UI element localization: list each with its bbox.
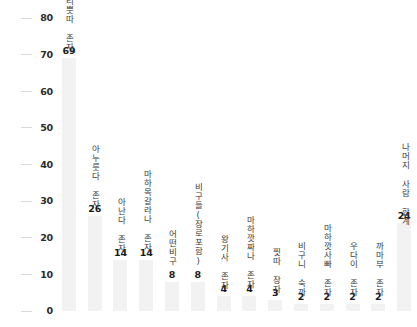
bar[interactable] — [346, 304, 360, 311]
y-axis-tick-label: 10 — [37, 270, 53, 280]
bar[interactable] — [294, 304, 308, 311]
y-axis-tick-mark — [21, 311, 32, 312]
bar-category-label: 아난다 존자 — [116, 198, 125, 245]
y-axis-tick-mark — [21, 91, 32, 92]
bar[interactable] — [217, 296, 231, 311]
bar-category-label: 아누룻다 존자 — [90, 145, 99, 201]
bar-category-label: 나머지 사람 합계 — [400, 143, 409, 208]
bar[interactable] — [62, 58, 76, 311]
bar[interactable] — [88, 216, 102, 311]
bar-category-label: 사리뿟따 존자 — [64, 0, 73, 43]
y-axis-tick-mark — [21, 18, 32, 19]
bar-group[interactable]: 8어떤비구 — [159, 0, 185, 327]
y-axis-tick-label: 50 — [37, 123, 53, 133]
bar-value-label: 8 — [195, 270, 201, 280]
bar[interactable] — [320, 304, 334, 311]
y-axis-tick-mark — [21, 127, 32, 128]
y-axis-tick-mark — [21, 274, 32, 275]
bar[interactable] — [242, 296, 256, 311]
plot-area: 69사리뿟따 존자26아누룻다 존자14아난다 존자14마하목갈라나 존자8어떤… — [56, 0, 417, 327]
bar-category-label: 비구들(장로포함) — [193, 183, 202, 267]
y-axis-tick-label: 0 — [37, 306, 53, 316]
y-axis-tick-label: 40 — [37, 160, 53, 170]
bar-category-label: 어떤비구 — [168, 230, 177, 267]
bar[interactable] — [397, 223, 411, 311]
bar-group[interactable]: 24나머지 사람 합계 — [391, 0, 417, 327]
bar[interactable] — [371, 304, 385, 311]
bar-category-label: 왕기사 존자 — [219, 235, 228, 282]
bar-category-label: 마하깟사빠 존자 — [322, 224, 331, 289]
bar[interactable] — [139, 260, 153, 311]
bar-category-label: 찟따 장자 — [271, 248, 280, 285]
bar-chart: 01020304050607080 69사리뿟따 존자26아누룻다 존자14아난… — [0, 0, 417, 327]
bar-value-label: 8 — [169, 270, 175, 280]
y-axis-tick-label: 60 — [37, 87, 53, 97]
bar-category-label: 마하목갈라나 존자 — [142, 170, 151, 244]
y-axis-tick-mark — [21, 201, 32, 202]
bar[interactable] — [191, 282, 205, 311]
bar[interactable] — [113, 260, 127, 311]
y-axis-tick-mark — [21, 54, 32, 55]
bar-category-label: 까마부 존자 — [374, 242, 383, 289]
bar-group[interactable]: 4왕기사 존자 — [211, 0, 237, 327]
bar-category-label: 비구니 숙까 — [297, 242, 306, 289]
y-axis-tick-mark — [21, 164, 32, 165]
bar-group[interactable]: 2우다이 존자 — [340, 0, 366, 327]
y-axis: 01020304050607080 — [0, 0, 56, 327]
bar-group[interactable]: 8비구들(장로포함) — [185, 0, 211, 327]
y-axis-tick-label: 30 — [37, 196, 53, 206]
bar-group[interactable]: 2마하깟사빠 존자 — [314, 0, 340, 327]
bar-group[interactable]: 2비구니 숙까 — [288, 0, 314, 327]
bar-group[interactable]: 4마하깟짜나 존자 — [237, 0, 263, 327]
y-axis-tick-label: 20 — [37, 233, 53, 243]
bar-group[interactable]: 14마하목갈라나 존자 — [133, 0, 159, 327]
bar-group[interactable]: 14아난다 존자 — [108, 0, 134, 327]
y-axis-tick-label: 80 — [37, 13, 53, 23]
bar[interactable] — [268, 300, 282, 311]
bar[interactable] — [165, 282, 179, 311]
bar-group[interactable]: 2까마부 존자 — [365, 0, 391, 327]
bar-group[interactable]: 3찟따 장자 — [262, 0, 288, 327]
bar-category-label: 마하깟짜나 존자 — [245, 216, 254, 281]
y-axis-tick-label: 70 — [37, 50, 53, 60]
y-axis-tick-mark — [21, 237, 32, 238]
bar-group[interactable]: 69사리뿟따 존자 — [56, 0, 82, 327]
bar-group[interactable]: 26아누룻다 존자 — [82, 0, 108, 327]
bar-category-label: 우다이 존자 — [348, 242, 357, 289]
